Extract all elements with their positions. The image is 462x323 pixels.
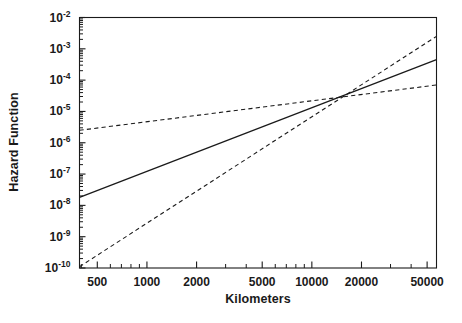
plot-frame <box>80 18 437 269</box>
x-tick-label: 1000 <box>134 275 161 289</box>
x-tick-label: 10000 <box>295 275 329 289</box>
y-tick-label: 10-7 <box>50 165 71 181</box>
y-tick-label: 10-6 <box>50 134 71 150</box>
x-axis-major-ticks <box>97 262 427 269</box>
x-axis-tick-labels: 500100020005000100002000050000 <box>87 275 444 289</box>
x-tick-label: 5000 <box>249 275 276 289</box>
y-tick-label: 10-8 <box>50 196 71 212</box>
y-tick-label: 10-5 <box>50 102 71 118</box>
hazard-function-figure: 10-210-310-410-510-610-710-810-910-10 50… <box>0 0 462 323</box>
x-tick-label: 20000 <box>345 275 379 289</box>
y-tick-label: 10-2 <box>50 9 71 25</box>
series-line <box>80 85 437 130</box>
y-axis-tick-labels: 10-210-310-410-510-610-710-810-910-10 <box>45 9 71 276</box>
x-tick-label: 500 <box>87 275 107 289</box>
series-line <box>80 60 437 198</box>
y-axis-title: Hazard Function <box>7 92 21 191</box>
y-tick-label: 10-9 <box>50 228 71 244</box>
chart-canvas: 10-210-310-410-510-610-710-810-910-10 50… <box>0 0 462 323</box>
y-tick-label: 10-3 <box>50 40 71 56</box>
y-tick-label: 10-4 <box>50 71 71 87</box>
x-tick-label: 50000 <box>410 275 444 289</box>
x-axis-title: Kilometers <box>225 292 291 306</box>
series-line <box>80 36 437 266</box>
y-axis-major-ticks <box>80 18 86 269</box>
y-tick-label: 10-10 <box>45 259 71 275</box>
x-tick-label: 2000 <box>183 275 210 289</box>
data-series-group <box>80 36 437 266</box>
